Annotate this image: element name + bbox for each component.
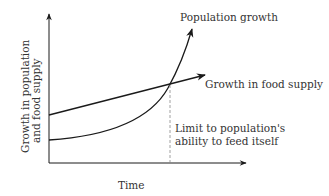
x-axis-label: Time [118, 179, 145, 191]
y-axis-label-line2: and food supply [30, 58, 42, 143]
growth-diagram: Population growth Growth in food supply … [0, 0, 329, 196]
population-curve [49, 29, 192, 140]
food-supply-line [49, 75, 205, 115]
population-growth-label: Population growth [180, 11, 278, 23]
food-supply-label: Growth in food supply [205, 78, 323, 90]
limit-annotation-line1: Limit to population's [175, 122, 285, 134]
limit-annotation-line2: ability to feed itself [175, 135, 279, 147]
